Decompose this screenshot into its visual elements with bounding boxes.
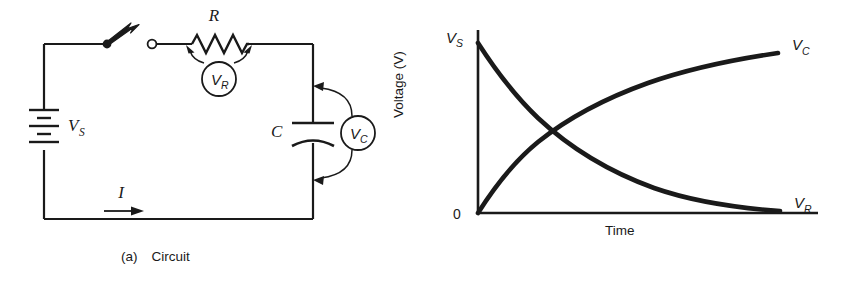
curve-vc [478,53,778,213]
y-tick-zero-label: 0 [453,206,461,222]
charging-curves-chart: V S 0 V C V R [420,0,858,240]
voltmeter-r-sublabel: R [221,79,229,91]
circuit-schematic: R V R V S [0,0,430,240]
panel-circuit-diagram: R V R V S [0,0,430,286]
caption-a-tag: (a) [121,249,138,264]
vc-lead-upper [321,88,352,116]
switch-blade-arrow [106,23,139,46]
source-label-group: V S [68,116,85,138]
y-tick-top-sublabel: S [456,37,463,49]
voltmeter-r: V R [202,62,236,96]
curve-vr [478,43,780,211]
resistor-zigzag-icon [192,35,249,53]
figure-rc-charging: R V R V S [0,0,858,286]
capacitor-polarized-icon [292,123,334,146]
switch-open-icon[interactable] [103,23,157,48]
resistor-zigzag-path [192,35,249,53]
current-arrow-head [131,207,144,216]
y-axis-title: Voltage (V) [391,51,406,118]
vc-lead-lower [321,150,352,178]
capacitor-label: C [271,122,283,141]
resistor-label: R [208,6,220,25]
source-sublabel: S [79,126,85,138]
series-vr-sublabel: R [804,203,812,215]
panel-charging-curves: V S 0 V C V R (b)Charging curves [420,0,858,286]
current-arrow-icon [104,207,144,216]
vc-arrowhead-lower [313,176,324,185]
voltmeter-c: V C [341,116,375,150]
series-label-vc: V C [792,36,810,57]
caption-a-text: Circuit [152,249,190,264]
caption-panel-a: (a)Circuit [121,249,190,264]
series-vc-sublabel: C [802,45,810,57]
current-label: I [117,183,125,202]
vc-arrowhead-upper [313,82,324,91]
y-tick-top: V S [446,29,463,49]
switch-open-terminal [148,40,157,49]
battery-cell-icon [29,110,59,142]
voltmeter-c-sublabel: C [360,133,368,145]
x-axis-title: Time [605,223,635,238]
vr-arrowhead-left [186,45,195,54]
